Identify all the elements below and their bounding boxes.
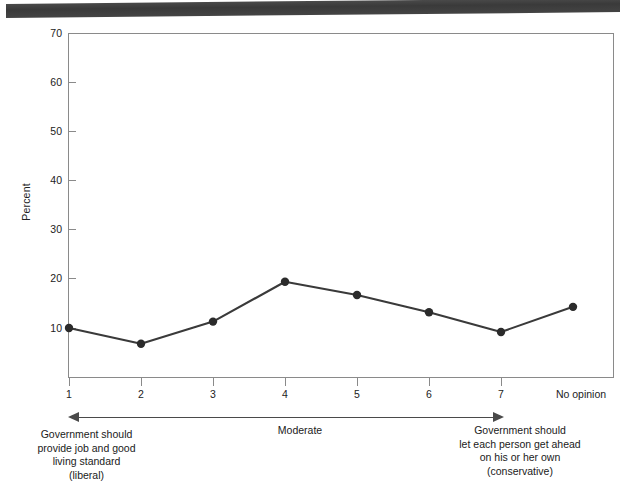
x-tick-6 <box>429 378 430 386</box>
y-tick-40 <box>68 180 76 181</box>
x-tick-2 <box>141 378 142 386</box>
y-tick-10 <box>68 328 76 329</box>
caption-liberal: Government should provide job and good l… <box>4 428 169 482</box>
y-tick-30 <box>68 229 76 230</box>
x-axis-label-6: 6 <box>426 388 432 400</box>
x-axis-label-no-opinion: No opinion <box>556 388 606 400</box>
plot-frame <box>68 33 614 378</box>
x-axis-label-7: 7 <box>498 388 504 400</box>
x-tick-3 <box>213 378 214 386</box>
y-axis-labels: 70 60 50 40 30 20 10 Percent <box>14 0 62 484</box>
y-axis-title: Percent <box>20 172 32 232</box>
caption-moderate: Moderate <box>240 424 360 438</box>
x-axis-label-5: 5 <box>354 388 360 400</box>
y-tick-60 <box>68 82 76 83</box>
y-tick-50 <box>68 131 76 132</box>
caption-conservative: Government should let each person get ah… <box>420 424 620 478</box>
y-axis-label-50: 50 <box>16 126 62 136</box>
x-tick-5 <box>357 378 358 386</box>
chart-page: 70 60 50 40 30 20 10 Percent 1 2 3 4 5 6… <box>0 0 622 484</box>
x-axis-label-4: 4 <box>282 388 288 400</box>
x-tick-1 <box>69 378 70 386</box>
x-axis-label-3: 3 <box>210 388 216 400</box>
arrow-line <box>74 417 498 418</box>
y-axis-label-10: 10 <box>16 323 62 333</box>
x-axis-label-1: 1 <box>66 388 72 400</box>
scan-shadow-band <box>6 0 620 18</box>
x-tick-7 <box>501 378 502 386</box>
x-tick-4 <box>285 378 286 386</box>
y-axis-label-70: 70 <box>16 28 62 38</box>
y-axis-label-20: 20 <box>16 273 62 283</box>
x-axis-label-2: 2 <box>138 388 144 400</box>
arrow-right-icon <box>493 412 504 422</box>
y-axis-label-60: 60 <box>16 77 62 87</box>
y-tick-20 <box>68 278 76 279</box>
ideology-scale-arrow <box>68 412 504 424</box>
